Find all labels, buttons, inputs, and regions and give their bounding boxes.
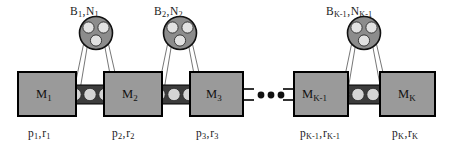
pulley-label-3: BK-1,NK-1 bbox=[326, 6, 372, 20]
pulley-roller bbox=[351, 22, 362, 33]
pulley-b-symbol: B bbox=[70, 5, 78, 17]
pulley-roller bbox=[358, 35, 369, 46]
ellipsis-dots bbox=[258, 92, 285, 99]
parameter-r-index: 1 bbox=[46, 132, 50, 141]
parameter-r-index: K bbox=[412, 132, 418, 141]
pulley-b-symbol: B bbox=[326, 5, 334, 17]
parameter-p-index: K-1 bbox=[306, 132, 319, 141]
parameter-r-index: K-1 bbox=[327, 132, 340, 141]
machine-symbol: M bbox=[302, 87, 313, 101]
parameter-label-3: p3,r3 bbox=[196, 128, 218, 142]
figure-canvas bbox=[0, 0, 450, 149]
pulley-roller bbox=[366, 22, 377, 33]
parameter-r-index: 2 bbox=[130, 132, 134, 141]
pulley-roller bbox=[90, 35, 101, 46]
parameter-label-k: pK,rK bbox=[392, 128, 418, 142]
pulley-roller bbox=[182, 22, 193, 33]
parameter-r-index: 3 bbox=[214, 132, 218, 141]
machine-index: 1 bbox=[47, 93, 52, 103]
pulley-roller bbox=[98, 22, 109, 33]
machine-label-m3: M3 bbox=[206, 88, 222, 103]
pulley-b-index: K-1 bbox=[334, 10, 347, 19]
pulley-roller bbox=[174, 35, 185, 46]
pulley-2 bbox=[164, 17, 197, 50]
machine-label-mk1: MK-1 bbox=[302, 88, 327, 103]
pulley-roller bbox=[83, 22, 94, 33]
pulley-n-index: 2 bbox=[179, 10, 183, 19]
machine-label-m2: M2 bbox=[122, 88, 138, 103]
parameter-label-2: p2,r2 bbox=[112, 128, 134, 142]
pulley-label-2: B2,N2 bbox=[154, 6, 183, 20]
pulley-n-index: K-1 bbox=[359, 10, 372, 19]
buffer-ball bbox=[352, 88, 364, 100]
machine-symbol: M bbox=[36, 87, 47, 101]
machine-label-m1: M1 bbox=[36, 88, 52, 103]
machine-symbol: M bbox=[206, 87, 217, 101]
pulley-roller bbox=[167, 22, 178, 33]
machine-index: 2 bbox=[133, 93, 138, 103]
pulley-n-symbol: N bbox=[86, 5, 95, 17]
machine-symbol: M bbox=[122, 87, 133, 101]
buffer-ball bbox=[367, 88, 379, 100]
machine-index: K-1 bbox=[313, 93, 327, 103]
machine-symbol: M bbox=[398, 87, 409, 101]
pulley-n-index: 1 bbox=[95, 10, 99, 19]
machine-index: K bbox=[409, 93, 416, 103]
buffer-ball bbox=[168, 88, 180, 100]
parameter-label-1: p1,r1 bbox=[28, 128, 50, 142]
pulley-1 bbox=[80, 17, 113, 50]
parameter-label-k1: pK-1,rK-1 bbox=[300, 128, 340, 142]
buffer-ball bbox=[84, 88, 96, 100]
pulley-b-symbol: B bbox=[154, 5, 162, 17]
pulley-3 bbox=[348, 17, 381, 50]
machine-label-mk: MK bbox=[398, 88, 416, 103]
pulley-label-1: B1,N1 bbox=[70, 6, 99, 20]
machine-index: 3 bbox=[217, 93, 222, 103]
pulley-n-symbol: N bbox=[170, 5, 179, 17]
production-line-figure: B1,N1 B2,N2 BK-1,NK-1 M1 M2 M3 MK-1 MK p… bbox=[0, 0, 450, 149]
